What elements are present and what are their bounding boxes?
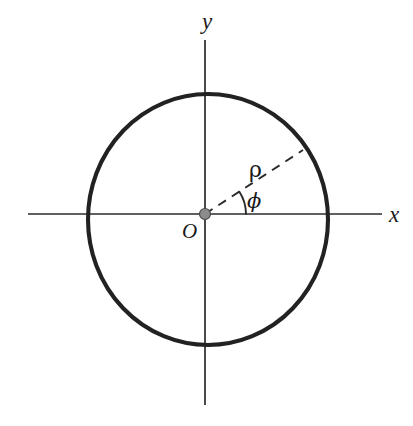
polar-coordinate-diagram: y x O ρ ϕ xyxy=(0,0,413,426)
origin-point-marker xyxy=(200,209,211,220)
diagram-canvas xyxy=(0,0,413,426)
angle-phi-label: ϕ xyxy=(247,191,261,212)
angle-arc xyxy=(239,192,246,214)
x-axis-label: x xyxy=(389,203,399,226)
radius-rho-label: ρ xyxy=(249,159,262,181)
circle-curve xyxy=(88,94,328,345)
origin-label: O xyxy=(182,221,197,242)
y-axis-label: y xyxy=(202,10,212,33)
